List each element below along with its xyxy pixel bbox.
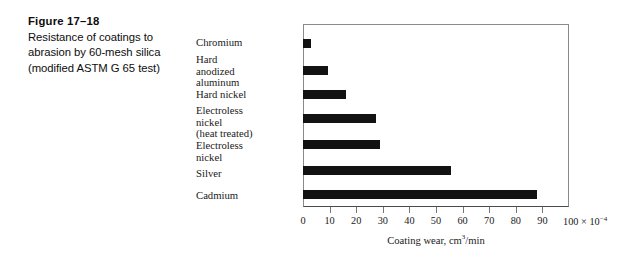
- bar-row: [303, 140, 380, 149]
- x-axis-tick-label: 10: [324, 215, 334, 226]
- x-axis-title-text: Coating wear, cm3/min: [387, 235, 485, 246]
- category-label-electroless-nickel: Electroless nickel: [196, 140, 296, 163]
- bar-row: [303, 114, 376, 123]
- bar-row: [303, 66, 328, 75]
- figure-page: Figure 17–18 Resistance of coatings to a…: [0, 0, 631, 259]
- bar-hard-nickel: [303, 90, 346, 99]
- figure-caption: Figure 17–18 Resistance of coatings to a…: [28, 14, 193, 76]
- x-axis-tick-label: 70: [484, 215, 494, 226]
- figure-caption-text: Resistance of coatings to abrasion by 60…: [28, 30, 193, 76]
- x-axis-tick: [356, 207, 357, 213]
- bar-cadmium: [303, 190, 537, 199]
- bar-row: [303, 39, 311, 48]
- x-axis-ticks: [303, 207, 569, 214]
- x-axis-tick: [409, 207, 410, 213]
- x-axis-tick-label: 90: [537, 215, 547, 226]
- x-axis-tick-label: 0: [300, 215, 305, 226]
- bar-row: [303, 166, 451, 175]
- bar-chromium: [303, 39, 311, 48]
- category-label-silver: Silver: [196, 168, 296, 180]
- bar-electroless-nickel-heat-treated: [303, 114, 376, 123]
- x-axis-tick-label: 50: [431, 215, 441, 226]
- bar-electroless-nickel: [303, 140, 380, 149]
- bar-series: [303, 24, 569, 207]
- category-label-hard-anodized-aluminum: Hard anodized aluminum: [196, 54, 296, 89]
- bar-row: [303, 90, 346, 99]
- x-axis-title: Coating wear, cm3/min: [303, 233, 569, 246]
- bar-silver: [303, 166, 451, 175]
- x-axis-tick-label: 40: [404, 215, 414, 226]
- x-axis-tick: [542, 207, 543, 213]
- x-axis-tick-label: 60: [457, 215, 467, 226]
- x-axis-tick-label: 100 × 10−4: [563, 215, 607, 227]
- x-axis-tick: [436, 207, 437, 213]
- bar-row: [303, 190, 537, 199]
- figure-number: Figure 17–18: [28, 14, 193, 29]
- bar-hard-anodized-aluminum: [303, 66, 328, 75]
- x-axis-tick-label: 80: [511, 215, 521, 226]
- x-axis-tick-label: 30: [378, 215, 388, 226]
- x-axis-tick-labels: 0102030405060708090100 × 10−4: [0, 215, 631, 229]
- x-axis-tick: [463, 207, 464, 213]
- category-label-chromium: Chromium: [196, 37, 296, 49]
- x-axis-tick: [330, 207, 331, 213]
- category-label-hard-nickel: Hard nickel: [196, 89, 296, 101]
- category-axis-labels: Chromium Hard anodized aluminum Hard nic…: [196, 24, 300, 207]
- x-axis-tick: [516, 207, 517, 213]
- category-label-electroless-nickel-heat-treated: Electroless nickel (heat treated): [196, 105, 296, 140]
- x-axis-tick: [383, 207, 384, 213]
- x-axis-tick: [489, 207, 490, 213]
- category-label-cadmium: Cadmium: [196, 190, 296, 202]
- bar-chart-plot-area: [303, 24, 569, 207]
- x-axis-tick-label: 20: [351, 215, 361, 226]
